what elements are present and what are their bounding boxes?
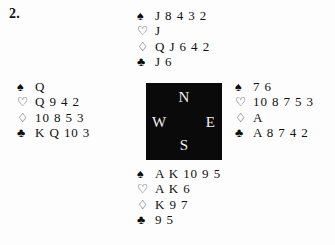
east-diamond-row: ♢ A bbox=[235, 110, 314, 125]
north-clubs: J 6 bbox=[151, 54, 173, 69]
heart-icon: ♡ bbox=[17, 95, 31, 110]
north-hearts: J bbox=[151, 23, 161, 38]
north-club-row: ♣ J 6 bbox=[137, 54, 210, 69]
south-clubs: 9 5 bbox=[151, 212, 174, 227]
west-hearts: Q 9 4 2 bbox=[31, 94, 80, 109]
hand-west: ♠ Q ♡ Q 9 4 2 ♢ 10 8 5 3 ♣ K Q 10 3 bbox=[17, 79, 90, 141]
bridge-deal-diagram: 2. ♠ J 8 4 3 2 ♡ J ♢ Q J 6 4 2 ♣ J 6 ♠ Q… bbox=[0, 0, 335, 245]
east-diamonds: A bbox=[249, 110, 263, 125]
east-hearts: 10 8 7 5 3 bbox=[249, 94, 314, 109]
south-diamond-row: ♢ K 9 7 bbox=[137, 197, 221, 212]
west-diamond-row: ♢ 10 8 5 3 bbox=[17, 110, 90, 125]
east-spade-row: ♠ 7 6 bbox=[235, 79, 314, 94]
east-heart-row: ♡ 10 8 7 5 3 bbox=[235, 94, 314, 109]
south-spades: A K 10 9 5 bbox=[151, 166, 221, 181]
south-club-row: ♣ 9 5 bbox=[137, 212, 221, 227]
diamond-icon: ♢ bbox=[137, 198, 151, 213]
west-diamonds: 10 8 5 3 bbox=[31, 110, 84, 125]
north-diamonds: Q J 6 4 2 bbox=[151, 39, 210, 54]
heart-icon: ♡ bbox=[235, 95, 249, 110]
heart-icon: ♡ bbox=[137, 24, 151, 39]
west-spades: Q bbox=[31, 79, 45, 94]
west-clubs: K Q 10 3 bbox=[31, 125, 90, 140]
diamond-icon: ♢ bbox=[235, 111, 249, 126]
diamond-icon: ♢ bbox=[137, 40, 151, 55]
problem-number: 2. bbox=[9, 7, 20, 21]
west-spade-row: ♠ Q bbox=[17, 79, 90, 94]
south-heart-row: ♡ A K 6 bbox=[137, 181, 221, 196]
east-club-row: ♣ A 8 7 4 2 bbox=[235, 125, 314, 140]
north-spades: J 8 4 3 2 bbox=[151, 8, 207, 23]
north-spade-row: ♠ J 8 4 3 2 bbox=[137, 8, 210, 23]
hand-south: ♠ A K 10 9 5 ♡ A K 6 ♢ K 9 7 ♣ 9 5 bbox=[137, 166, 221, 228]
east-clubs: A 8 7 4 2 bbox=[249, 125, 309, 140]
compass-label-south: S bbox=[180, 138, 188, 153]
club-icon: ♣ bbox=[137, 55, 151, 70]
east-spades: 7 6 bbox=[249, 79, 272, 94]
compass-label-east: E bbox=[206, 114, 215, 129]
hand-north: ♠ J 8 4 3 2 ♡ J ♢ Q J 6 4 2 ♣ J 6 bbox=[137, 8, 210, 70]
spade-icon: ♠ bbox=[17, 80, 31, 95]
west-heart-row: ♡ Q 9 4 2 bbox=[17, 94, 90, 109]
south-hearts: A K 6 bbox=[151, 181, 191, 196]
heart-icon: ♡ bbox=[137, 182, 151, 197]
club-icon: ♣ bbox=[17, 126, 31, 141]
south-diamonds: K 9 7 bbox=[151, 197, 188, 212]
spade-icon: ♠ bbox=[137, 167, 151, 182]
north-diamond-row: ♢ Q J 6 4 2 bbox=[137, 39, 210, 54]
diamond-icon: ♢ bbox=[17, 111, 31, 126]
compass-label-north: N bbox=[179, 90, 190, 105]
spade-icon: ♠ bbox=[137, 9, 151, 24]
compass-label-west: W bbox=[152, 114, 166, 129]
west-club-row: ♣ K Q 10 3 bbox=[17, 125, 90, 140]
spade-icon: ♠ bbox=[235, 80, 249, 95]
south-spade-row: ♠ A K 10 9 5 bbox=[137, 166, 221, 181]
hand-east: ♠ 7 6 ♡ 10 8 7 5 3 ♢ A ♣ A 8 7 4 2 bbox=[235, 79, 314, 141]
club-icon: ♣ bbox=[137, 213, 151, 228]
north-heart-row: ♡ J bbox=[137, 23, 210, 38]
compass-box: N W E S bbox=[146, 83, 222, 160]
club-icon: ♣ bbox=[235, 126, 249, 141]
